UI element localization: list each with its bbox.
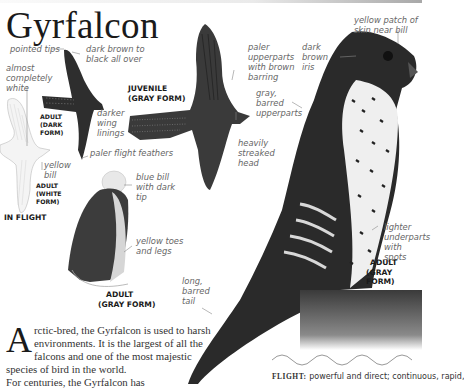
caption-line: (GRAY FORM) xyxy=(366,268,422,287)
caption-line: (WHITE xyxy=(36,190,62,198)
juvenile-falcon-illustration xyxy=(128,24,250,190)
intro-text: A rctic-bred, the Gyrfalcon is used to h… xyxy=(6,324,222,389)
caption-adult-gray-large: ADULT (GRAY FORM) xyxy=(366,258,422,287)
label-gray-barred-upperparts: gray, barred upperparts xyxy=(256,88,306,118)
label-long-barred-tail: long, barred tail xyxy=(182,276,212,306)
caption-line: (GRAY FORM) xyxy=(128,94,185,104)
flight-text: powerful and direct; continuous, rapid, xyxy=(309,372,464,381)
drop-cap: A xyxy=(6,326,32,354)
label-darker-wing-linings: darker wing linings xyxy=(97,108,137,138)
caption-in-flight: IN FLIGHT xyxy=(4,213,46,223)
caption-line: FORM) xyxy=(40,129,63,137)
label-almost-white: almost completely white xyxy=(6,63,52,93)
caption-line: ADULT xyxy=(40,113,63,121)
label-pointed-tips: pointed tips xyxy=(10,44,60,54)
caption-line: JUVENILE xyxy=(128,84,185,94)
label-yellow-bill: yellow bill xyxy=(44,160,68,180)
label-yellow-patch: yellow patch of skin near bill xyxy=(354,15,420,35)
caption-adult-gray-small: ADULT (GRAY FORM) xyxy=(98,290,155,309)
caption-line: (DARK xyxy=(40,121,63,129)
label-yellow-toes: yellow toes and legs xyxy=(136,236,186,256)
caption-line: ADULT xyxy=(36,182,62,190)
flight-description: FLIGHT: powerful and direct; continuous,… xyxy=(272,372,464,381)
label-blue-bill: blue bill with dark tip xyxy=(136,172,176,202)
flight-label: FLIGHT: xyxy=(272,372,307,381)
intro-paragraph-1: rctic-bred, the Gyrfalcon is used to har… xyxy=(6,324,211,375)
adult-gray-sitting-illustration xyxy=(68,171,128,286)
label-paler-upperparts: paler upperparts with brown barring xyxy=(248,42,298,82)
caption-adult-dark: ADULT (DARK FORM) xyxy=(40,113,63,137)
caption-line: (GRAY FORM) xyxy=(98,300,155,310)
wooden-post-illustration xyxy=(300,290,422,350)
caption-line: FORM) xyxy=(36,198,62,206)
intro-paragraph-2: For centuries, the Gyrfalcon has xyxy=(6,376,222,389)
flight-pattern-wave xyxy=(272,355,412,365)
label-dark-brown-black: dark brown to black all over xyxy=(86,44,146,64)
caption-line: ADULT xyxy=(366,258,422,268)
label-dark-brown-iris: dark brown iris xyxy=(302,42,338,72)
caption-juvenile-gray: JUVENILE (GRAY FORM) xyxy=(128,84,185,103)
label-paler-flight-feathers: paler flight feathers xyxy=(90,148,173,158)
label-lighter-underparts: lighter underparts with spots xyxy=(384,222,424,262)
caption-adult-white: ADULT (WHITE FORM) xyxy=(36,182,62,206)
caption-line: ADULT xyxy=(98,290,155,300)
label-heavily-streaked-head: heavily streaked head xyxy=(238,138,276,168)
